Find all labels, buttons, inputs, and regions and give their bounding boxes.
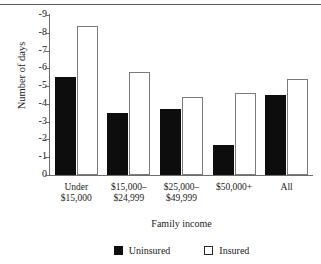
hollow-square-icon (204, 246, 213, 255)
y-tick-label: -8 (1, 27, 47, 37)
top-divider-rule (0, 4, 321, 5)
legend-item-uninsured: Uninsured (114, 245, 171, 256)
bar-uninsured (107, 113, 128, 175)
legend-label-insured: Insured (219, 245, 249, 256)
x-tick-label: All (253, 182, 320, 193)
chart-legend: Uninsured Insured (50, 242, 313, 258)
y-tick-label: 0 (1, 169, 47, 179)
bar-group (213, 15, 256, 175)
bar-uninsured (55, 77, 76, 175)
bar-uninsured (213, 145, 234, 175)
y-axis-ticks: -9-8-7-6-5-4-3-2-10 (0, 0, 47, 264)
y-tick-label: -2 (1, 133, 47, 143)
bar-uninsured (160, 109, 181, 175)
y-tick-label: -9 (1, 9, 47, 19)
x-axis-title: Family income (50, 218, 313, 230)
bar-uninsured (265, 95, 286, 175)
legend-item-insured: Insured (204, 245, 249, 256)
bar-group (160, 15, 203, 175)
filled-square-icon (114, 246, 123, 255)
y-tick-label: -7 (1, 45, 47, 55)
bar-group (265, 15, 308, 175)
bar-insured (77, 26, 98, 175)
y-tick-label: -3 (1, 116, 47, 126)
x-axis-line (49, 175, 313, 176)
bar-chart-figure: Number of days -9-8-7-6-5-4-3-2-10 Famil… (0, 0, 321, 264)
bar-insured (235, 93, 256, 175)
bar-group (107, 15, 150, 175)
y-tick-label: -6 (1, 62, 47, 72)
y-tick-label: -1 (1, 151, 47, 161)
bar-insured (182, 97, 203, 175)
bar-group (55, 15, 98, 175)
y-tick-label: -4 (1, 98, 47, 108)
y-tick-label: -5 (1, 80, 47, 90)
plot-area (50, 15, 313, 175)
bar-insured (129, 72, 150, 175)
bar-insured (287, 79, 308, 175)
legend-label-uninsured: Uninsured (129, 245, 171, 256)
